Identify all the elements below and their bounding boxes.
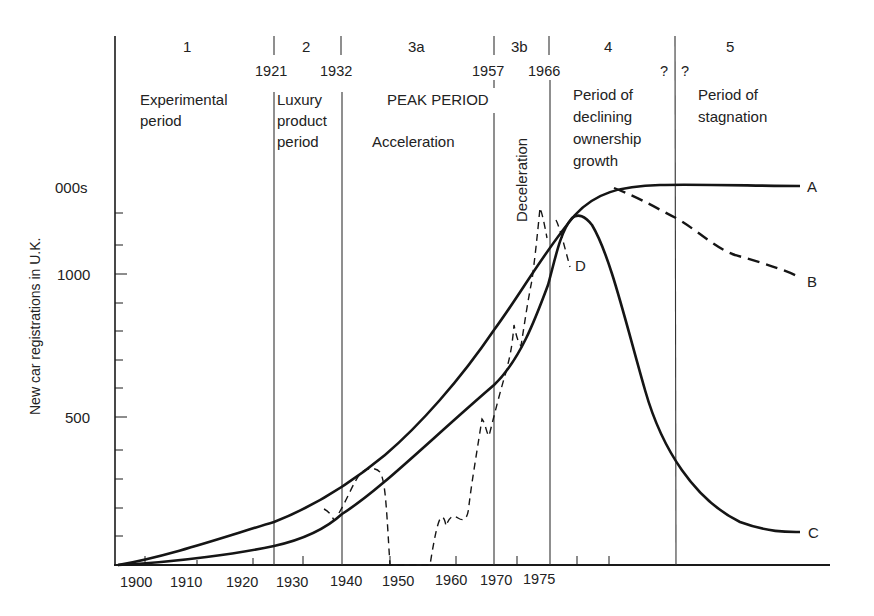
phase-5-desc: stagnation bbox=[698, 108, 767, 125]
svg-text:1920: 1920 bbox=[226, 574, 258, 590]
svg-text:1957: 1957 bbox=[472, 63, 504, 79]
y-label-500: 500 bbox=[65, 409, 90, 426]
acceleration-label: Acceleration bbox=[372, 133, 455, 150]
curve-d bbox=[324, 208, 570, 565]
phase-4-desc: declining bbox=[573, 108, 632, 125]
y-unit-label: 000s bbox=[55, 179, 88, 196]
svg-text:5: 5 bbox=[726, 38, 734, 55]
y-label-1000: 1000 bbox=[57, 266, 90, 283]
curve-d-label: D bbox=[575, 257, 586, 274]
svg-text:1: 1 bbox=[183, 38, 191, 55]
svg-text:1966: 1966 bbox=[528, 63, 560, 79]
svg-text:1975: 1975 bbox=[523, 571, 555, 587]
svg-text:2: 2 bbox=[302, 38, 310, 55]
svg-text:1930: 1930 bbox=[276, 574, 308, 590]
phase-descriptions: Experimental period Luxury product perio… bbox=[140, 86, 767, 222]
y-ticks bbox=[115, 213, 127, 536]
curve-c bbox=[118, 216, 800, 565]
phase-4-desc: ownership bbox=[573, 130, 641, 147]
curve-c-label: C bbox=[808, 524, 819, 541]
svg-text:3b: 3b bbox=[511, 38, 528, 55]
curve-a-label: A bbox=[807, 178, 817, 195]
svg-text:1940: 1940 bbox=[330, 573, 362, 589]
phase-numbers: 1 2 3a 3b 4 5 bbox=[183, 38, 734, 55]
peak-period-label: PEAK PERIOD bbox=[387, 91, 489, 108]
deceleration-label: Deceleration bbox=[513, 138, 530, 222]
svg-text:1950: 1950 bbox=[382, 573, 414, 589]
svg-text:1960: 1960 bbox=[435, 572, 467, 588]
phase-4-desc: Period of bbox=[573, 86, 634, 103]
x-ticks bbox=[145, 556, 609, 565]
svg-text:1910: 1910 bbox=[170, 574, 202, 590]
phase-2-desc: period bbox=[277, 133, 319, 150]
svg-text:3a: 3a bbox=[408, 38, 425, 55]
car-ownership-chart: 000s 1000 500 New car registrations in U… bbox=[0, 0, 874, 616]
svg-text:1970: 1970 bbox=[480, 572, 512, 588]
curve-a bbox=[118, 185, 800, 565]
curve-b bbox=[614, 188, 797, 276]
phase-2-desc: Luxury bbox=[277, 91, 323, 108]
phase-4-desc: growth bbox=[573, 152, 618, 169]
svg-text:1900: 1900 bbox=[120, 574, 152, 590]
divider-5 bbox=[675, 36, 676, 565]
phase-1-desc: Experimental bbox=[140, 91, 228, 108]
svg-text:1932: 1932 bbox=[320, 63, 352, 79]
curve-labels: A B C D bbox=[575, 178, 819, 541]
curves bbox=[118, 185, 800, 565]
svg-text:4: 4 bbox=[604, 38, 612, 55]
phase-5-desc: Period of bbox=[698, 86, 759, 103]
phase-1-desc: period bbox=[140, 112, 182, 129]
phase-2-desc: product bbox=[277, 112, 328, 129]
y-axis-title: New car registrations in U.K. bbox=[27, 238, 43, 415]
x-tick-labels: 1900 1910 1920 1930 1940 1950 1960 1970 … bbox=[120, 571, 555, 590]
boundary-years: 1921 1932 1957 1966 ? ? bbox=[255, 63, 689, 79]
curve-b-label: B bbox=[807, 273, 817, 290]
svg-text:?: ? bbox=[660, 63, 668, 79]
svg-text:?: ? bbox=[681, 63, 689, 79]
svg-text:1921: 1921 bbox=[255, 63, 287, 79]
